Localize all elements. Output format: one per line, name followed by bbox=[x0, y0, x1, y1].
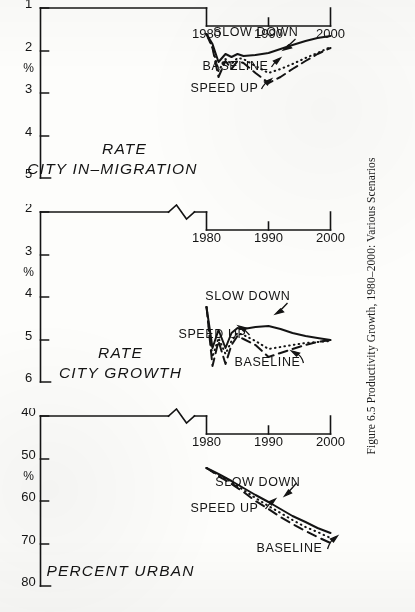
series-label-speed-up: SPEED UP bbox=[190, 501, 258, 515]
x-tick-label: 1990 bbox=[254, 434, 283, 449]
y-tick-label: 2 bbox=[24, 39, 31, 54]
y-tick-label: 2 bbox=[24, 204, 31, 215]
panel-title: PERCENT URBAN bbox=[46, 562, 194, 579]
series-label-baseline: BASELINE bbox=[202, 59, 268, 73]
x-tick-label: 2000 bbox=[316, 26, 345, 41]
panel-title: CITY GROWTH bbox=[58, 364, 181, 381]
figure-caption: Figure 6.5 Productivity Growth, 1980–200… bbox=[364, 0, 376, 612]
x-tick-label: 1980 bbox=[192, 434, 221, 449]
y-tick-label: 3 bbox=[24, 243, 31, 258]
x-tick-label: 2000 bbox=[316, 230, 345, 245]
y-tick-label: 5 bbox=[24, 328, 31, 343]
panel-percent-urban: 80 70 60 % 50 40 bbox=[0, 408, 358, 612]
panel-city-growth-rate: 6 5 4 % 3 2 1980 bbox=[0, 204, 358, 408]
series-label-slow-down: SLOW DOWN bbox=[213, 25, 298, 39]
x-tick-label: 2000 bbox=[316, 434, 345, 449]
series-label-baseline: BASELINE bbox=[234, 355, 300, 369]
panel-city-in-migration-rate: 5 4 3 % 2 1 1980 1990 2000 bbox=[0, 0, 358, 204]
panel-title-line2: RATE bbox=[98, 344, 143, 361]
x-tick-label: 1990 bbox=[254, 230, 283, 245]
y-tick-label: 6 bbox=[24, 370, 31, 385]
y-unit-label: % bbox=[23, 469, 34, 483]
panel-title: CITY IN–MIGRATION bbox=[27, 160, 198, 177]
y-unit-label: % bbox=[23, 265, 34, 279]
y-tick-label: 4 bbox=[24, 124, 31, 139]
series-label-speed-up: SPEED UP bbox=[178, 327, 246, 341]
y-tick-label: 80 bbox=[21, 574, 35, 589]
y-tick-label: 40 bbox=[21, 408, 35, 419]
figure-page: 80 70 60 % 50 40 bbox=[0, 0, 415, 612]
y-tick-label: 70 bbox=[21, 532, 35, 547]
series-label-slow-down: SLOW DOWN bbox=[215, 475, 300, 489]
y-tick-label: 60 bbox=[21, 489, 35, 504]
panel-row: 80 70 60 % 50 40 bbox=[0, 0, 358, 612]
y-tick-label: 50 bbox=[21, 447, 35, 462]
x-tick-label: 1980 bbox=[192, 230, 221, 245]
series-label-baseline: BASELINE bbox=[256, 541, 322, 555]
panel-title-line2: RATE bbox=[102, 140, 147, 157]
y-tick-label: 4 bbox=[24, 285, 31, 300]
y-unit-label: % bbox=[23, 61, 34, 75]
y-tick-label: 3 bbox=[24, 81, 31, 96]
y-tick-label: 1 bbox=[24, 0, 31, 11]
series-label-speed-up: SPEED UP bbox=[190, 81, 258, 95]
series-label-slow-down: SLOW DOWN bbox=[205, 289, 290, 303]
